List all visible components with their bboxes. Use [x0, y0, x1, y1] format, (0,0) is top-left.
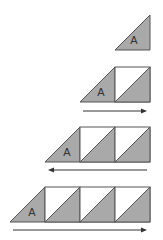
hst-unit: [80, 127, 115, 162]
label-a: A: [28, 206, 36, 218]
label-a: A: [130, 34, 138, 46]
diagram-canvas: A A A A: [0, 0, 163, 240]
arrow-right: [13, 228, 147, 233]
row-4: A: [10, 187, 150, 233]
row-2: A: [80, 67, 150, 114]
row-1: A: [115, 15, 150, 50]
label-a: A: [63, 146, 71, 158]
row-3: A: [45, 127, 150, 173]
hst-unit: [115, 67, 150, 102]
arrow-left: [48, 168, 147, 173]
hst-unit: [45, 187, 80, 222]
hst-unit: [80, 187, 115, 222]
hst-unit: [115, 127, 150, 162]
hst-unit: [115, 187, 150, 222]
arrow-right: [83, 109, 147, 114]
label-a: A: [97, 86, 105, 98]
